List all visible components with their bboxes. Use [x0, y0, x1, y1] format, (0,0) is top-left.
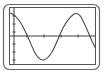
- graph-canvas: [0, 0, 105, 76]
- calculator-graph-screenshot: [0, 0, 105, 76]
